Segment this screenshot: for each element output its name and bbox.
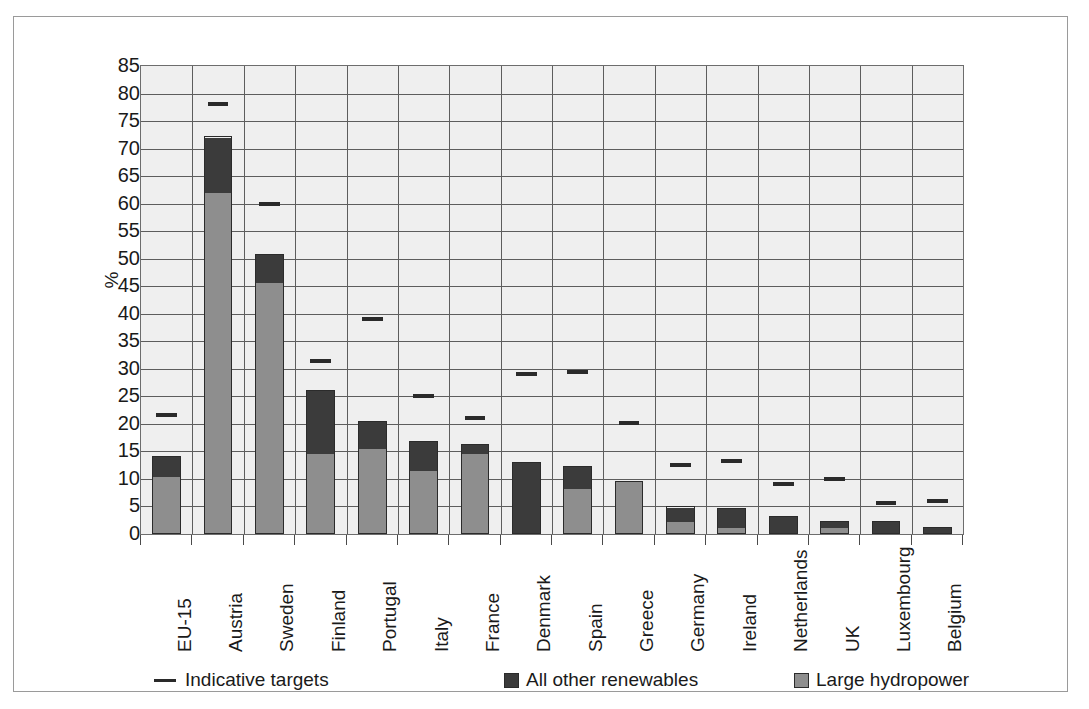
bar-denmark — [512, 462, 541, 534]
bar-segment-all-other-renewables — [307, 391, 334, 455]
bar-germany — [666, 506, 695, 534]
bar-austria — [204, 136, 233, 534]
x-tick-mark — [859, 535, 860, 545]
legend-item: Indicative targets — [154, 669, 329, 691]
x-tick-mark — [243, 535, 244, 545]
bar-segment-large-hydropower — [410, 471, 437, 533]
indicative-target-marker — [876, 501, 897, 505]
indicative-target-marker — [773, 482, 794, 486]
bar-luxembourg — [872, 521, 901, 534]
indicative-target-marker — [721, 459, 742, 463]
bars-layer — [141, 66, 963, 534]
x-axis-ticks — [140, 535, 964, 547]
x-tick-label-netherlands: Netherlands — [790, 550, 812, 652]
x-tick-mark — [448, 535, 449, 545]
indicative-target-marker — [413, 394, 434, 398]
bar-segment-large-hydropower — [307, 454, 334, 533]
y-tick-label: 35 — [94, 330, 140, 350]
y-tick-label: 20 — [94, 413, 140, 433]
category-separator — [655, 66, 656, 534]
x-tick-label-greece: Greece — [636, 590, 658, 652]
category-separator — [295, 66, 296, 534]
bar-ireland — [717, 508, 746, 534]
x-tick-mark — [911, 535, 912, 545]
bar-segment-large-hydropower — [616, 482, 643, 533]
category-separator — [706, 66, 707, 534]
x-tick-label-luxembourg: Luxembourg — [893, 546, 915, 652]
bar-segment-large-hydropower — [256, 283, 283, 533]
x-tick-label-spain: Spain — [585, 603, 607, 652]
indicative-target-marker — [156, 413, 177, 417]
bar-spain — [563, 466, 592, 534]
category-separator — [552, 66, 553, 534]
bar-segment-all-other-renewables — [256, 255, 283, 282]
bar-belgium — [923, 527, 952, 534]
y-tick-label: 80 — [94, 83, 140, 103]
x-tick-label-germany: Germany — [687, 574, 709, 652]
bar-france — [461, 444, 490, 534]
category-separator — [192, 66, 193, 534]
indicative-target-marker — [208, 102, 229, 106]
category-separator — [347, 66, 348, 534]
x-tick-mark — [294, 535, 295, 545]
x-tick-mark — [140, 535, 141, 545]
bar-segment-large-hydropower — [667, 522, 694, 533]
category-separator — [244, 66, 245, 534]
x-tick-mark — [808, 535, 809, 545]
bar-segment-large-hydropower — [359, 449, 386, 533]
bar-segment-all-other-renewables — [205, 138, 232, 194]
y-tick-label: 40 — [94, 303, 140, 323]
category-separator — [912, 66, 913, 534]
indicative-target-marker — [465, 416, 486, 420]
category-separator — [603, 66, 604, 534]
plot-area — [140, 65, 964, 535]
y-tick-label: 60 — [94, 193, 140, 213]
bar-greece — [615, 481, 644, 534]
legend-item: Large hydropower — [794, 669, 969, 691]
y-tick-label: 45 — [94, 275, 140, 295]
indicative-target-marker — [670, 463, 691, 467]
bar-segment-all-other-renewables — [513, 463, 540, 533]
bar-portugal — [358, 421, 387, 534]
y-tick-label: 15 — [94, 440, 140, 460]
line-marker-icon — [154, 679, 176, 682]
bar-segment-all-other-renewables — [153, 457, 180, 477]
indicative-target-marker — [927, 499, 948, 503]
bar-segment-all-other-renewables — [462, 445, 489, 454]
category-separator — [758, 66, 759, 534]
bar-segment-large-hydropower — [718, 528, 745, 533]
category-separator — [501, 66, 502, 534]
x-tick-label-uk: UK — [842, 626, 864, 652]
x-tick-label-ireland: Ireland — [739, 594, 761, 652]
legend-item: All other renewables — [504, 669, 698, 691]
bar-segment-large-hydropower — [564, 489, 591, 533]
bar-segment-large-hydropower — [153, 477, 180, 533]
x-tick-mark — [397, 535, 398, 545]
y-tick-label: 5 — [94, 495, 140, 515]
bar-finland — [306, 390, 335, 534]
y-axis-tick-labels: 0510152025303540455055606570758085 — [76, 17, 140, 709]
x-tick-mark — [500, 535, 501, 545]
chart-figure: % 0510152025303540455055606570758085 EU-… — [13, 16, 1068, 692]
x-tick-label-sweden: Sweden — [276, 583, 298, 652]
legend-label: Indicative targets — [185, 669, 329, 691]
x-tick-label-france: France — [482, 593, 504, 652]
x-tick-label-portugal: Portugal — [379, 581, 401, 652]
bar-uk — [820, 521, 849, 534]
indicative-target-marker — [362, 317, 383, 321]
y-tick-label: 55 — [94, 220, 140, 240]
x-tick-mark — [602, 535, 603, 545]
category-separator — [398, 66, 399, 534]
x-tick-label-denmark: Denmark — [533, 575, 555, 652]
bar-segment-all-other-renewables — [770, 517, 797, 533]
bar-netherlands — [769, 516, 798, 534]
bar-segment-all-other-renewables — [359, 422, 386, 448]
bar-segment-all-other-renewables — [873, 522, 900, 533]
indicative-target-marker — [259, 202, 280, 206]
x-tick-label-austria: Austria — [225, 593, 247, 652]
x-tick-mark — [346, 535, 347, 545]
y-tick-label: 0 — [94, 523, 140, 543]
category-separator — [860, 66, 861, 534]
x-tick-label-eu-15: EU-15 — [174, 598, 196, 652]
category-separator — [449, 66, 450, 534]
